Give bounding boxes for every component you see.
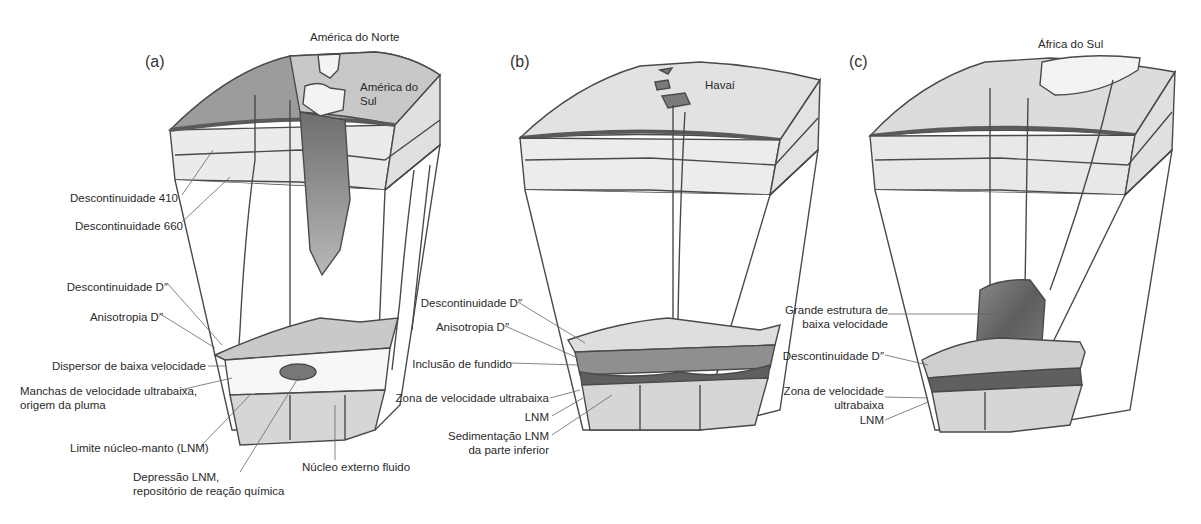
label-south-america-2: Sul (360, 94, 377, 108)
label-south-america-1: América do (360, 80, 418, 94)
callout-fluid-outer-core: Núcleo externo fluido (302, 460, 410, 474)
callout-b-ulvz: Zona de velocidade ultrabaixa (396, 391, 549, 405)
callout-c-ulvz-2: ultrabaixa (834, 398, 884, 412)
panel-a-block (170, 52, 440, 445)
callout-low-velocity-scatterer: Dispersor de baixa velocidade (52, 359, 206, 373)
callout-cmb-depression-1: Depressão LNM, (133, 470, 219, 484)
callout-cmb: Limite núcleo-manto (LNM) (70, 441, 209, 455)
callout-b-cmb: LNM (525, 410, 549, 424)
callout-a-d-discontinuity: Descontinuidade D″ (67, 280, 168, 294)
callout-b-d-anisotropy: Anisotropia D″ (436, 320, 509, 334)
callout-ulv-patches-1: Manchas de velocidade ultrabaixa, (20, 384, 197, 398)
callout-discontinuity-660: Descontinuidade 660 (75, 219, 183, 233)
callout-cmb-sedimentation-1: Sedimentação LNM (448, 429, 549, 443)
callout-large-lvs-2: baixa velocidade (802, 317, 888, 331)
callout-ulv-patches-2: origem da pluma (20, 398, 106, 412)
panel-b-block (520, 62, 820, 430)
callout-discontinuity-410: Descontinuidade 410 (70, 191, 178, 205)
callout-cmb-depression-2: repositório de reação química (133, 484, 285, 498)
callout-b-d-discontinuity: Descontinuidade D″ (421, 296, 522, 310)
callout-melt-inclusion: Inclusão de fundido (412, 357, 512, 371)
callout-c-d-discontinuity: Descontinuidade D″ (783, 349, 884, 363)
panel-c-block (870, 56, 1175, 432)
label-south-africa: África do Sul (1038, 37, 1103, 51)
callout-cmb-sedimentation-2: da parte inferior (468, 443, 549, 457)
panel-label-a: (a) (145, 53, 165, 71)
callout-a-d-anisotropy: Anisotropia D″ (90, 310, 163, 324)
callout-c-cmb: LNM (860, 413, 884, 427)
callout-c-ulvz-1: Zona de velocidade (784, 384, 884, 398)
callout-large-lvs-1: Grande estrutura de (785, 303, 888, 317)
panel-label-b: (b) (510, 53, 530, 71)
label-hawaii: Havaí (705, 78, 735, 92)
label-north-america: América do Norte (310, 30, 399, 44)
panel-label-c: (c) (849, 53, 868, 71)
